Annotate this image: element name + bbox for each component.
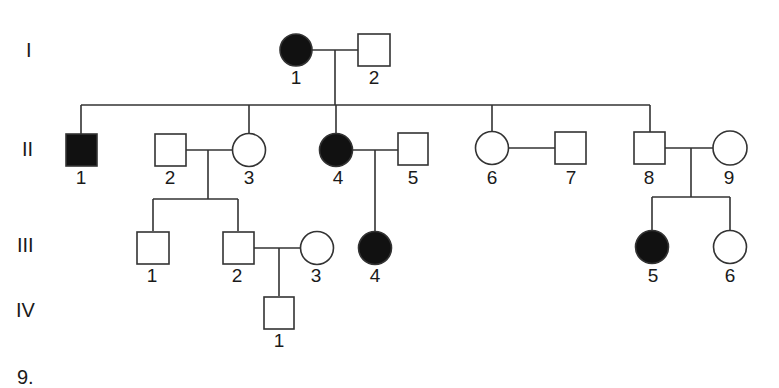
female-unaffected-icon bbox=[301, 232, 334, 265]
male-affected-icon bbox=[66, 134, 97, 166]
generation-label-II: II bbox=[22, 138, 33, 161]
individual-label: 5 bbox=[398, 167, 428, 189]
generation-label-IV: IV bbox=[16, 299, 35, 322]
female-unaffected-icon bbox=[713, 131, 747, 165]
individual-label: 7 bbox=[556, 167, 586, 189]
female-unaffected-icon bbox=[233, 134, 266, 167]
female-unaffected-icon bbox=[714, 231, 747, 264]
individual-label: 2 bbox=[155, 167, 185, 189]
individual-label: 4 bbox=[323, 167, 353, 189]
female-affected-icon bbox=[280, 34, 312, 66]
individual-label: 1 bbox=[264, 330, 294, 352]
individual-label: 8 bbox=[634, 167, 664, 189]
individual-label: 1 bbox=[281, 67, 311, 89]
male-unaffected-icon bbox=[634, 132, 665, 164]
individual-label: 3 bbox=[234, 167, 264, 189]
male-unaffected-icon bbox=[555, 132, 586, 164]
male-unaffected-icon bbox=[223, 232, 254, 264]
male-unaffected-icon bbox=[398, 133, 428, 165]
male-unaffected-icon bbox=[358, 34, 390, 66]
male-unaffected-icon bbox=[137, 232, 169, 264]
generation-label-III: III bbox=[17, 234, 34, 257]
individual-label: 3 bbox=[301, 265, 331, 287]
male-unaffected-icon bbox=[264, 297, 294, 329]
female-affected-icon bbox=[320, 134, 353, 167]
female-unaffected-icon bbox=[476, 132, 509, 165]
individual-label: 6 bbox=[477, 167, 507, 189]
individual-label: 2 bbox=[222, 265, 252, 287]
individual-label: 5 bbox=[638, 265, 668, 287]
individual-label: 1 bbox=[66, 167, 96, 189]
individual-label: 9 bbox=[714, 167, 744, 189]
female-affected-icon bbox=[359, 232, 392, 265]
pedigree-chart bbox=[0, 0, 779, 388]
individual-label: 1 bbox=[137, 265, 167, 287]
male-unaffected-icon bbox=[155, 134, 186, 166]
individual-label: 4 bbox=[360, 265, 390, 287]
individual-label: 2 bbox=[359, 67, 389, 89]
female-affected-icon bbox=[636, 231, 669, 264]
figure-number: 9. bbox=[17, 366, 34, 388]
generation-label-I: I bbox=[26, 39, 32, 62]
individual-label: 6 bbox=[715, 265, 745, 287]
